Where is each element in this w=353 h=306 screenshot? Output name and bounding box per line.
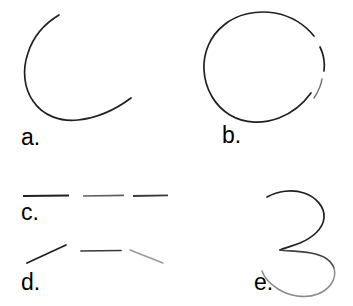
shape-b-nearly-closed-circle	[204, 12, 324, 122]
panel-label-d: d.	[21, 271, 40, 294]
panel-label-e: e.	[254, 271, 273, 294]
panel-label-b: b.	[222, 124, 241, 147]
shape-d-angled-dashed-path	[27, 245, 163, 263]
panel-label-c: c.	[21, 201, 39, 224]
figure-drawing	[0, 0, 353, 306]
shape-a-open-circle-arc	[25, 15, 131, 120]
panel-label-a: a.	[21, 126, 40, 149]
figure-canvas: a. b. c. d. e.	[0, 0, 353, 306]
shape-c-horizontal-dashed-line	[23, 195, 168, 196]
